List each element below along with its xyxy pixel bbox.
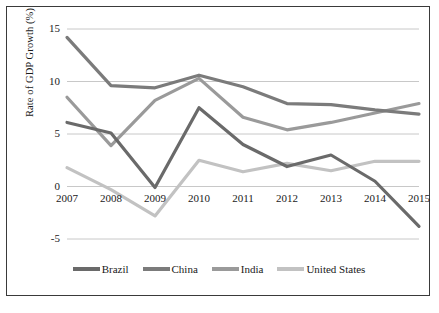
x-tick-label: 2015 xyxy=(399,192,439,204)
legend-label: China xyxy=(172,263,198,275)
x-tick-label: 2014 xyxy=(355,192,395,204)
legend-swatch-icon xyxy=(212,267,239,270)
legend-label: India xyxy=(241,263,264,275)
legend-item-china[interactable]: China xyxy=(143,263,198,275)
line-chart-svg xyxy=(7,7,431,297)
x-tick-label: 2010 xyxy=(179,192,219,204)
x-tick-label: 2007 xyxy=(47,192,87,204)
x-tick-label: 2012 xyxy=(267,192,307,204)
legend-label: Brazil xyxy=(102,263,129,275)
series-line-china xyxy=(67,37,419,114)
legend-swatch-icon xyxy=(277,267,304,270)
legend-label: United States xyxy=(306,263,365,275)
legend-item-united-states[interactable]: United States xyxy=(277,263,365,275)
x-tick-label: 2008 xyxy=(91,192,131,204)
series-line-brazil xyxy=(67,108,419,227)
legend-swatch-icon xyxy=(143,267,170,270)
chart-plot-area: Rate of GDP Growth (%) -5051015 20072008… xyxy=(7,7,429,295)
series-line-united-states xyxy=(67,160,419,216)
chart-legend: BrazilChinaIndiaUnited States xyxy=(7,263,431,275)
figure-frame: Rate of GDP Growth (%) -5051015 20072008… xyxy=(6,6,430,296)
y-tick-label: 5 xyxy=(34,127,60,139)
y-tick-label: 15 xyxy=(34,22,60,34)
x-tick-label: 2011 xyxy=(223,192,263,204)
x-tick-label: 2009 xyxy=(135,192,175,204)
legend-item-brazil[interactable]: Brazil xyxy=(73,263,129,275)
y-tick-label: 10 xyxy=(34,75,60,87)
y-tick-label: 0 xyxy=(34,180,60,192)
x-tick-label: 2013 xyxy=(311,192,351,204)
legend-swatch-icon xyxy=(73,267,100,270)
gridlines-group xyxy=(67,29,419,239)
legend-item-india[interactable]: India xyxy=(212,263,264,275)
y-tick-label: -5 xyxy=(34,232,60,244)
